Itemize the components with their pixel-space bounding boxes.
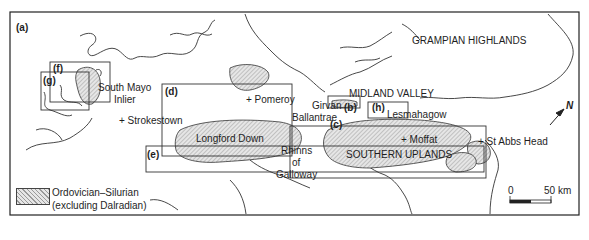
label-strokestown: + Strokestown [119,116,183,126]
outcrop-south-mayo [76,67,101,104]
inset-label-d: (d) [165,87,178,97]
inset-label-h: (h) [372,103,385,113]
inset-label-e: (e) [147,150,159,160]
inset-label-c: (c) [330,120,342,130]
label-midland-valley: MIDLAND VALLEY [349,89,434,99]
label-grampian-highlands: GRAMPIAN HIGHLANDS [412,36,526,46]
scale-end: 50 km [544,186,571,196]
label-inlier: Inlier [114,95,136,105]
legend-line1: Ordovician–Silurian [52,188,139,198]
panel-label: (a) [16,23,28,33]
inset-label-g: (g) [43,76,56,86]
label-southern-uplands: SOUTHERN UPLANDS [346,150,452,160]
label-rhinns: Rhinns [281,146,312,156]
label-pomeroy: + Pomeroy [246,95,295,105]
label-of: of [292,158,300,168]
north-label: N [566,101,573,111]
legend-line2: (excluding Dalradian) [52,201,147,211]
scale-bar [510,196,551,203]
label-moffat: + Moffat [401,135,437,145]
label-st-abbs-head: + St Abbs Head [478,137,548,147]
label-lesmahagow: Lesmahagow [387,110,446,120]
scale-start: 0 [508,186,514,196]
label-girvan: Girvan [312,101,341,111]
label-galloway: Galloway [276,170,317,180]
label-south-mayo: South Mayo [98,83,151,93]
inset-label-f: (f) [53,64,63,74]
label-longford-down: Longford Down [196,134,264,144]
outcrop-pomeroy [230,65,269,91]
north-arrow-icon [550,109,564,125]
legend-swatch [16,188,50,205]
inset-label-b: (b) [344,103,357,113]
